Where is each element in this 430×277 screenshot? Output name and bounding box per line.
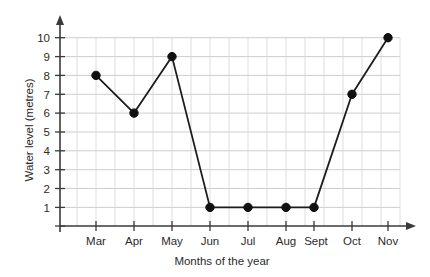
data-point-jul bbox=[244, 203, 252, 211]
x-tick-label: Sept bbox=[304, 235, 328, 247]
x-tick-label: Apr bbox=[125, 235, 143, 247]
x-tick-label: Aug bbox=[276, 235, 296, 247]
data-point-mar bbox=[92, 71, 100, 79]
x-axis-title: Months of the year bbox=[174, 255, 269, 267]
y-tick-label: 9 bbox=[44, 51, 50, 63]
y-tick-label: 4 bbox=[44, 145, 51, 157]
y-tick-label: 7 bbox=[44, 89, 50, 101]
y-tick-label: 3 bbox=[44, 164, 50, 176]
data-point-jun bbox=[206, 203, 214, 211]
data-point-sept bbox=[310, 203, 318, 211]
data-point-may bbox=[168, 52, 176, 60]
line-chart: 10 9 8 7 6 5 4 3 2 1 Mar Apr May Jun Jul… bbox=[0, 0, 430, 277]
y-tick-label: 2 bbox=[44, 183, 50, 195]
y-axis-title: Water level (metres) bbox=[23, 78, 35, 181]
data-point-aug bbox=[282, 203, 290, 211]
x-tick-label: May bbox=[161, 235, 183, 247]
x-tick-label: Mar bbox=[86, 235, 106, 247]
y-tick-label: 5 bbox=[44, 126, 50, 138]
y-tick-label: 1 bbox=[44, 202, 50, 214]
x-tick-label: Jun bbox=[201, 235, 220, 247]
data-point-apr bbox=[130, 109, 138, 117]
y-tick-label: 6 bbox=[44, 107, 50, 119]
y-tick-label: 8 bbox=[44, 70, 50, 82]
data-point-nov bbox=[384, 34, 392, 42]
x-tick-label: Oct bbox=[343, 235, 362, 247]
chart-canvas: 10 9 8 7 6 5 4 3 2 1 Mar Apr May Jun Jul… bbox=[0, 0, 430, 277]
x-tick-label: Jul bbox=[241, 235, 256, 247]
data-point-oct bbox=[348, 90, 356, 98]
x-tick-labels: Mar Apr May Jun Jul Aug Sept Oct Nov bbox=[86, 235, 398, 247]
x-tick-label: Nov bbox=[378, 235, 399, 247]
y-tick-label: 10 bbox=[37, 32, 50, 44]
